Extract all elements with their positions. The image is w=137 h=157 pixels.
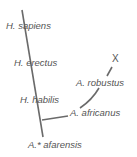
- label-a-afarensis: A.* afarensis: [28, 140, 82, 150]
- label-a-africanus: A. africanus: [70, 108, 120, 118]
- extinction-mark: X: [112, 54, 119, 64]
- label-h-habilis: H. habilis: [20, 95, 59, 105]
- robustus-upper-line: [107, 67, 112, 76]
- label-a-robustus: A. robustus: [76, 78, 124, 88]
- robustus-branch-curve: [80, 88, 99, 108]
- label-h-sapiens: H. sapiens: [6, 21, 51, 31]
- africanus-branch-line: [42, 116, 68, 120]
- label-h-erectus: H. erectus: [14, 58, 57, 68]
